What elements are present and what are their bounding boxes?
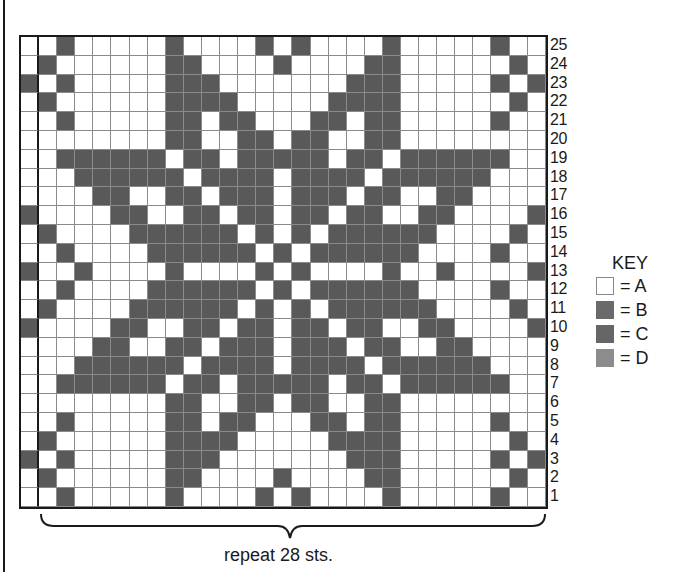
- chart-cell: [39, 37, 57, 56]
- chart-cell: [238, 375, 256, 394]
- chart-cell: [528, 37, 546, 56]
- chart-cell: [57, 300, 75, 319]
- chart-cell: [256, 75, 274, 94]
- chart-cell: [202, 187, 220, 206]
- chart-cell: [130, 357, 148, 376]
- chart-cell: [473, 413, 491, 432]
- chart-cell: [256, 93, 274, 112]
- chart-cell: [57, 150, 75, 169]
- chart-cell: [39, 187, 57, 206]
- chart-cell: [202, 150, 220, 169]
- chart-cell: [510, 225, 528, 244]
- chart-cell: [510, 206, 528, 225]
- chart-cell: [93, 225, 111, 244]
- chart-cell: [93, 169, 111, 188]
- key-title: KEY: [612, 252, 649, 274]
- chart-cell: [419, 187, 437, 206]
- chart-cell: [329, 37, 347, 56]
- chart-cell: [202, 131, 220, 150]
- row-number: 18: [550, 168, 567, 187]
- chart-cell: [130, 375, 148, 394]
- chart-cell: [473, 338, 491, 357]
- chart-cell: [75, 263, 93, 282]
- chart-cell: [93, 206, 111, 225]
- chart-cell: [510, 338, 528, 357]
- repeat-label: repeat 28 sts.: [224, 545, 333, 566]
- chart-cell: [39, 225, 57, 244]
- chart-cell: [111, 131, 129, 150]
- chart-cell: [510, 469, 528, 488]
- chart-cell: [220, 488, 238, 507]
- chart-cell: [93, 131, 111, 150]
- chart-cell: [148, 300, 166, 319]
- chart-cell: [21, 37, 39, 56]
- chart-cell: [510, 263, 528, 282]
- chart-cell: [329, 451, 347, 470]
- chart-cell: [528, 394, 546, 413]
- chart-cell: [455, 75, 473, 94]
- chart-cell: [39, 319, 57, 338]
- chart-cell: [528, 357, 546, 376]
- chart-cell: [401, 394, 419, 413]
- chart-cell: [510, 300, 528, 319]
- chart-cell: [419, 225, 437, 244]
- chart-cell: [510, 281, 528, 300]
- repeat-bracket-icon: [38, 512, 548, 540]
- chart-cell: [292, 469, 310, 488]
- chart-cell: [111, 375, 129, 394]
- chart-cell: [347, 469, 365, 488]
- chart-cell: [148, 432, 166, 451]
- chart-cell: [274, 488, 292, 507]
- chart-cell: [311, 263, 329, 282]
- chart-cell: [220, 394, 238, 413]
- chart-cell: [256, 263, 274, 282]
- chart-cell: [274, 56, 292, 75]
- chart-cell: [419, 75, 437, 94]
- chart-cell: [383, 300, 401, 319]
- chart-cell: [455, 357, 473, 376]
- chart-cell: [39, 131, 57, 150]
- chart-cell: [130, 319, 148, 338]
- chart-cell: [491, 357, 509, 376]
- chart-cell: [329, 93, 347, 112]
- chart-cell: [473, 281, 491, 300]
- chart-cell: [383, 187, 401, 206]
- chart-cell: [184, 432, 202, 451]
- chart-cell: [473, 375, 491, 394]
- chart-cell: [166, 206, 184, 225]
- chart-cell: [311, 338, 329, 357]
- chart-cell: [347, 169, 365, 188]
- chart-cell: [510, 37, 528, 56]
- row-number: 9: [550, 337, 567, 356]
- chart-cell: [166, 56, 184, 75]
- chart-cell: [39, 244, 57, 263]
- chart-cell: [184, 300, 202, 319]
- chart-cell: [437, 432, 455, 451]
- chart-cell: [455, 338, 473, 357]
- chart-cell: [57, 244, 75, 263]
- chart-cell: [401, 56, 419, 75]
- chart-cell: [491, 37, 509, 56]
- chart-cell: [383, 319, 401, 338]
- chart-cell: [166, 319, 184, 338]
- chart-cell: [130, 413, 148, 432]
- chart-cell: [184, 93, 202, 112]
- chart-cell: [274, 469, 292, 488]
- chart-cell: [311, 451, 329, 470]
- chart-cell: [148, 187, 166, 206]
- chart-cell: [292, 187, 310, 206]
- chart-cell: [274, 169, 292, 188]
- chart-cell: [491, 432, 509, 451]
- chart-cell: [491, 338, 509, 357]
- chart-cell: [148, 281, 166, 300]
- chart-cell: [491, 394, 509, 413]
- chart-cell: [166, 338, 184, 357]
- chart-cell: [292, 451, 310, 470]
- chart-cell: [93, 37, 111, 56]
- chart-cell: [220, 93, 238, 112]
- row-number: 15: [550, 224, 567, 243]
- chart-cell: [419, 150, 437, 169]
- chart-cell: [365, 357, 383, 376]
- chart-cell: [57, 75, 75, 94]
- chart-cell: [184, 150, 202, 169]
